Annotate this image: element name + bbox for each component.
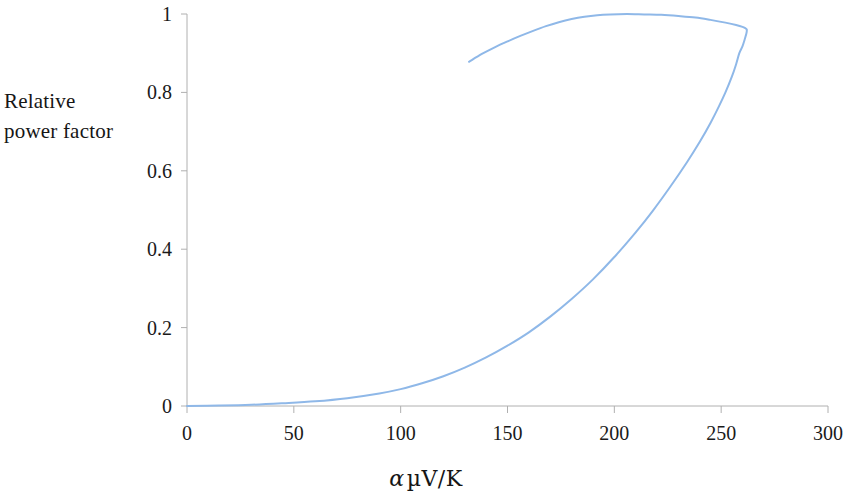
x-tick-label: 300 — [813, 422, 843, 445]
x-tick-label: 200 — [599, 422, 629, 445]
y-tick-label: 0 — [110, 395, 172, 418]
x-axis-ticks — [187, 406, 828, 413]
y-tick-label: 0.4 — [110, 238, 172, 261]
data-curve-relative-power-factor — [187, 14, 747, 406]
y-tick-label: 0.6 — [110, 159, 172, 182]
alpha-symbol: α — [389, 466, 404, 491]
x-tick-label: 250 — [706, 422, 736, 445]
x-tick-label: 50 — [284, 422, 304, 445]
y-tick-label: 0.2 — [110, 316, 172, 339]
x-tick-label: 100 — [386, 422, 416, 445]
axis-lines — [187, 14, 828, 406]
x-tick-label: 0 — [182, 422, 192, 445]
x-axis-unit: µV/K — [407, 466, 463, 491]
y-tick-label: 1 — [110, 3, 172, 26]
chart-figure: Relative power factor 00.20.40.60.81 050… — [0, 0, 852, 503]
x-tick-label: 150 — [493, 422, 523, 445]
y-tick-label: 0.8 — [110, 81, 172, 104]
y-axis-ticks — [181, 14, 187, 406]
x-axis-title: αµV/K — [0, 466, 852, 492]
